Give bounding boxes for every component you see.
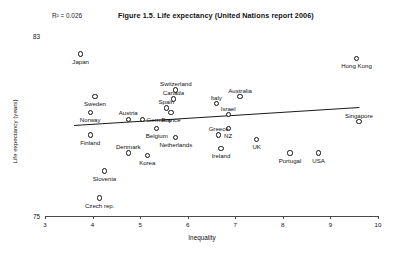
data-point-label: UK <box>252 143 260 150</box>
data-point-label: Ireland <box>212 152 231 159</box>
data-point[interactable] <box>316 150 321 155</box>
x-tick <box>378 216 379 219</box>
x-tick <box>45 216 46 219</box>
data-point[interactable] <box>145 153 150 158</box>
data-point-label: Italy <box>211 94 222 101</box>
data-point[interactable] <box>214 101 219 106</box>
data-point-label: Germany <box>147 116 172 123</box>
x-tick-label: 4 <box>91 221 94 228</box>
data-point[interactable] <box>88 110 93 115</box>
data-point-label: Korea <box>139 159 155 166</box>
trend-line <box>73 107 358 126</box>
data-point[interactable] <box>78 51 83 56</box>
data-point[interactable] <box>92 94 97 99</box>
data-point-label: Switzerland <box>160 80 192 87</box>
x-tick-label: 10 <box>375 221 382 228</box>
chart-container: R² = 0.026 Figure 1.5. Life expectancy (… <box>0 0 404 255</box>
x-tick-label: 9 <box>329 221 332 228</box>
data-point-label: Singapore <box>345 112 373 119</box>
data-point-label: Austria <box>119 109 138 116</box>
x-tick-label: 7 <box>234 221 237 228</box>
data-point-label: Sweden <box>84 100 106 107</box>
data-point[interactable] <box>218 146 223 151</box>
data-point[interactable] <box>287 150 292 155</box>
x-tick <box>330 216 331 219</box>
data-point[interactable] <box>140 117 145 122</box>
y-tick-label: 75 <box>33 213 40 220</box>
x-tick-label: 5 <box>138 221 141 228</box>
x-tick <box>188 216 189 219</box>
data-point[interactable] <box>173 135 178 140</box>
data-point-label: USA <box>312 157 325 164</box>
data-point-label: Greece <box>209 125 229 132</box>
data-point-label: Netherlands <box>159 141 192 148</box>
data-point[interactable] <box>237 94 242 99</box>
data-point-label: Belgium <box>146 132 168 139</box>
data-point-label: Finland <box>80 139 100 146</box>
data-point-label: Japan <box>72 58 89 65</box>
data-point-label: Portugal <box>279 157 302 164</box>
data-point-label: Hong Kong <box>341 62 372 69</box>
x-tick-label: 8 <box>281 221 284 228</box>
data-point-label: Slovenia <box>93 175 116 182</box>
data-point[interactable] <box>356 119 361 124</box>
data-point-label: Denmark <box>116 143 141 150</box>
x-tick <box>235 216 236 219</box>
data-point[interactable] <box>126 150 131 155</box>
data-point[interactable] <box>97 195 102 200</box>
data-point[interactable] <box>154 126 159 131</box>
data-point[interactable] <box>168 110 173 115</box>
data-point-label: NZ <box>224 132 232 139</box>
data-point[interactable] <box>126 117 131 122</box>
data-point-label: Australia <box>228 87 252 94</box>
data-point[interactable] <box>216 132 221 137</box>
x-tick <box>283 216 284 219</box>
x-tick-label: 6 <box>186 221 189 228</box>
data-point-label: Spain <box>159 98 175 105</box>
data-point[interactable] <box>354 56 359 61</box>
x-tick <box>140 216 141 219</box>
data-point-label: Canada <box>163 89 184 96</box>
data-point-label: Norway <box>80 116 101 123</box>
data-point[interactable] <box>226 112 231 117</box>
data-point-label: Czech rep. <box>85 202 114 209</box>
data-point[interactable] <box>88 132 93 137</box>
data-point[interactable] <box>254 137 259 142</box>
data-point-label: Israel <box>221 105 236 112</box>
x-tick-label: 3 <box>43 221 46 228</box>
x-axis-title: Inequality <box>0 234 404 241</box>
x-axis-line <box>45 216 378 217</box>
y-axis-title: Life expectancy (years) <box>11 72 18 192</box>
data-point[interactable] <box>102 168 107 173</box>
x-tick <box>93 216 94 219</box>
y-tick-label: 83 <box>33 33 40 40</box>
